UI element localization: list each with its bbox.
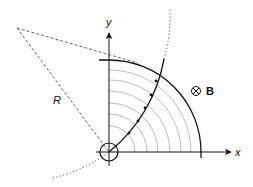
radius-label: R bbox=[53, 94, 61, 106]
radius-lines bbox=[17, 28, 138, 152]
magnetic-field-trajectory-diagram: y x R B bbox=[0, 0, 253, 187]
reference-arcs bbox=[109, 70, 191, 152]
field-into-page-icon bbox=[192, 87, 201, 96]
y-axis-label: y bbox=[105, 16, 113, 28]
field-region-boundary-arc bbox=[99, 60, 201, 158]
field-label: B bbox=[206, 85, 214, 97]
x-axis-label: x bbox=[234, 146, 241, 158]
